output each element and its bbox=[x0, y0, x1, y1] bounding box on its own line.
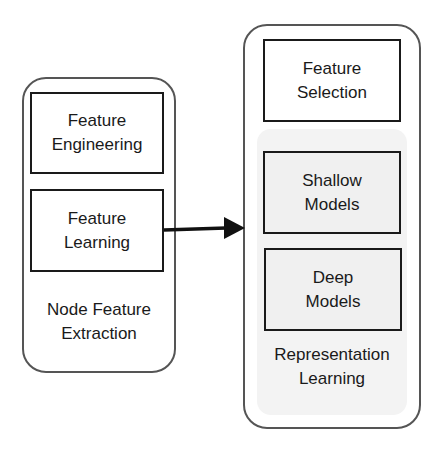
arrow-connector bbox=[0, 0, 444, 452]
